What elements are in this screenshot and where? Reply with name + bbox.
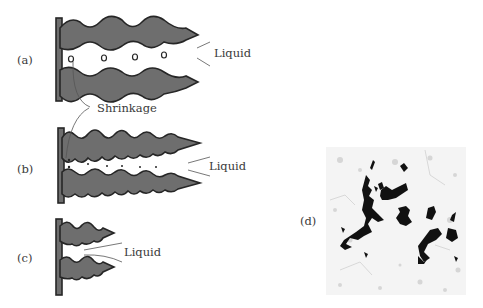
- liquid-label-a: Liquid: [214, 48, 251, 60]
- liquid-label-c: Liquid: [124, 247, 161, 259]
- dendrite-a: [56, 16, 198, 102]
- panel-label-a: (a): [17, 55, 33, 67]
- dendrite-c: [56, 219, 114, 295]
- panel-label-d: (d): [300, 216, 316, 228]
- shrinkage-label: Shrinkage: [97, 103, 157, 115]
- shrinkage-pores-a: [69, 52, 167, 62]
- liquid-arrows-b: [188, 157, 210, 176]
- liquid-arrows-a: [197, 42, 210, 66]
- dendrite-b: [58, 128, 200, 203]
- liquid-label-b: Liquid: [209, 161, 246, 173]
- panel-label-b: (b): [17, 164, 33, 176]
- panel-label-c: (c): [17, 253, 32, 265]
- micrograph-d: [326, 147, 466, 295]
